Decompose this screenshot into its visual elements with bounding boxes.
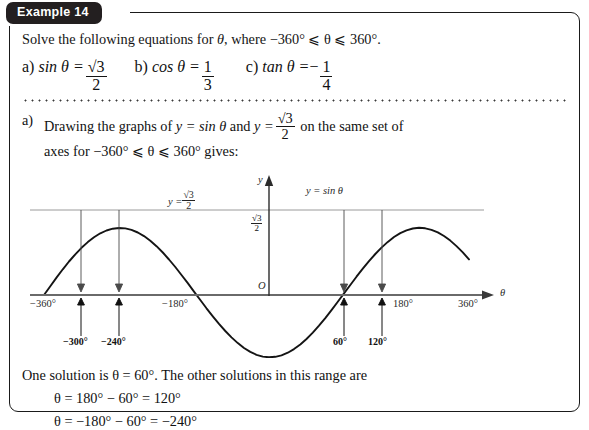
- solution-intro: a) Drawing the graphs of y = sin θ and y…: [22, 111, 568, 161]
- question-parts: a) sin θ = √3 2 b) cos θ = 1 3 c) tan θ: [22, 58, 568, 93]
- example-tab: Example 14: [6, 2, 102, 24]
- question-part-c: c) tan θ = − 1 4: [246, 58, 335, 93]
- part-c-label: c): [246, 58, 258, 76]
- answer-step1: θ = 180° − 60° = 120°: [54, 389, 568, 408]
- part-b-denominator: 3: [202, 77, 214, 94]
- stem-theta: θ: [217, 31, 224, 47]
- part-a-numerator: √3: [86, 59, 107, 77]
- solution-fraction: √3 2: [276, 111, 295, 142]
- origin-label: O: [258, 280, 266, 291]
- graph-final-layer: [22, 168, 568, 358]
- x-tick-180: 180°: [393, 298, 413, 309]
- question-stem: Solve the following equations for θ, whe…: [22, 30, 568, 49]
- part-a-label: a): [22, 58, 34, 76]
- part-b-label: b): [135, 58, 148, 76]
- solution-and: and: [230, 119, 251, 135]
- sine-graph: y = √3 2 y = sin θ y θ O √3 2 −360° −180…: [22, 168, 568, 358]
- hline-label-lead: y =: [168, 195, 182, 206]
- answer-step2: θ = −180° − 60° = −240°: [54, 412, 568, 430]
- answer-block: One solution is θ = 60°. The other solut…: [22, 366, 568, 430]
- solution-line1-b: on the same set of: [300, 119, 403, 135]
- answer-line1: One solution is θ = 60°. The other solut…: [22, 366, 568, 385]
- x-axis-label: θ: [500, 287, 505, 298]
- solution-eq-sin: y = sin θ: [176, 119, 226, 135]
- curve-label: y = sin θ: [306, 185, 343, 196]
- x-tick-360: 360°: [458, 298, 478, 309]
- part-c-numerator: 1: [320, 59, 332, 77]
- stem-range: −360° ⩽ θ ⩽ 360°.: [270, 31, 381, 47]
- part-c-fraction: 1 4: [320, 59, 332, 93]
- part-a-denominator: 2: [86, 77, 107, 94]
- solution-label: a): [22, 111, 44, 161]
- part-b-numerator: 1: [202, 59, 214, 77]
- stem-pre: Solve the following equations for: [22, 31, 213, 47]
- solution-denominator: 2: [276, 127, 295, 142]
- solution-numerator: √3: [276, 111, 295, 127]
- mark-minus300: −300°: [63, 336, 88, 347]
- section-divider: [22, 99, 567, 102]
- y-axis-label: y: [258, 174, 263, 185]
- solution-line2: axes for −360° ⩽ θ ⩽ 360° gives:: [44, 142, 544, 161]
- y-tick-den: 2: [251, 224, 262, 233]
- mark-120: 120°: [368, 336, 387, 347]
- part-c-denominator: 4: [320, 77, 332, 94]
- part-a-fraction: √3 2: [86, 59, 107, 93]
- part-c-sign: −: [309, 58, 318, 76]
- question-part-b: b) cos θ = 1 3: [135, 58, 216, 93]
- graph-canvas: [22, 168, 568, 358]
- part-c-fn: tan θ =: [262, 58, 309, 76]
- x-tick-minus360: −360°: [30, 298, 56, 309]
- stem-mid: , where: [224, 31, 266, 47]
- part-b-fraction: 1 3: [202, 59, 214, 93]
- content-area: Solve the following equations for θ, whe…: [22, 30, 568, 430]
- solution-eq-y: y =: [254, 119, 274, 135]
- mark-minus240: −240°: [101, 336, 126, 347]
- hline-label: y = √3 2: [168, 190, 195, 211]
- x-tick-minus180: −180°: [162, 298, 188, 309]
- y-tick-sqrt3-2: √3 2: [251, 214, 262, 233]
- hline-label-den: 2: [182, 201, 195, 211]
- mark-60: 60°: [333, 336, 347, 347]
- question-part-a: a) sin θ = √3 2: [22, 58, 109, 93]
- part-b-fn: cos θ =: [152, 58, 200, 76]
- part-a-fn: sin θ =: [38, 58, 83, 76]
- solution-line1-a: Drawing the graphs of: [44, 119, 172, 135]
- hline-label-fraction: √3 2: [182, 190, 195, 211]
